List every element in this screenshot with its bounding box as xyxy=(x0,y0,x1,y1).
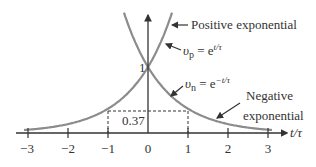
vp-equals: = e xyxy=(194,43,214,58)
tick-label: −2 xyxy=(61,141,75,156)
negative-exponential-label-line1: Negative xyxy=(246,88,293,103)
y-value-one: 1 xyxy=(139,60,146,75)
x-tick-labels: −3 −2 −1 0 1 2 3 xyxy=(20,141,271,156)
vp-formula: υp = et/τ xyxy=(183,42,223,60)
positive-exponential-label: Positive exponential xyxy=(191,17,297,32)
exponential-chart: −3 −2 −1 0 1 2 3 t/τ 1 0.37 Positive exp… xyxy=(0,0,316,167)
vn-equals: = e xyxy=(196,76,216,91)
vp-exponent: t/τ xyxy=(214,42,223,52)
y-value-037: 0.37 xyxy=(122,113,145,128)
tick-label: 1 xyxy=(185,141,192,156)
tick-label: 2 xyxy=(225,141,232,156)
arrow-negative-exponential xyxy=(217,103,240,118)
x-axis-label: t/τ xyxy=(290,125,303,140)
tick-label: 3 xyxy=(265,141,272,156)
vn-formula: υn = e−t/τ xyxy=(185,75,231,93)
tick-label: 0 xyxy=(145,141,152,156)
tick-label: −1 xyxy=(101,141,115,156)
arrow-vn xyxy=(171,86,183,96)
negative-exponential-label-line2: exponential xyxy=(243,108,304,123)
vn-exponent: −t/τ xyxy=(216,75,231,85)
tick-label: −3 xyxy=(20,141,34,156)
arrow-vp xyxy=(166,44,181,50)
